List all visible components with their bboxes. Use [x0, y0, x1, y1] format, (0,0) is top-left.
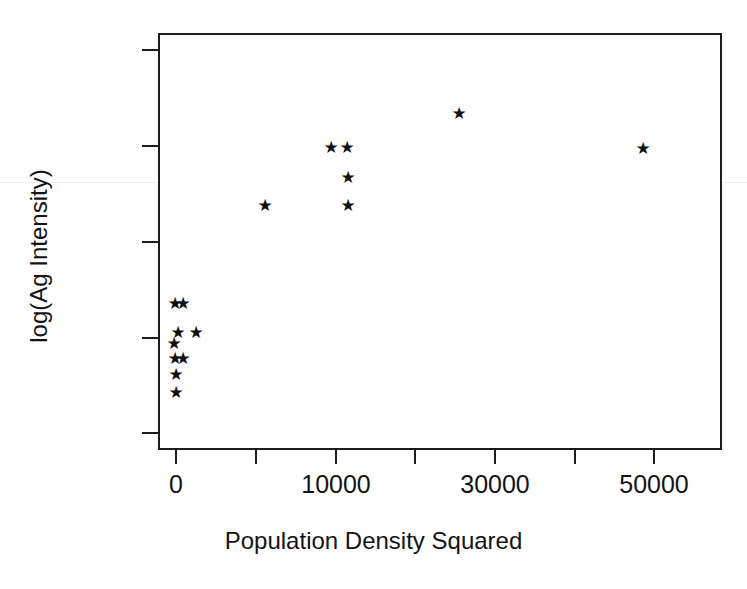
- x-tick-label: 30000: [415, 470, 575, 498]
- scatter-plot-figure: 2.52.01.51.00.5 0100003000050000 ★★★★★★★…: [0, 0, 747, 589]
- x-tick-mark: [414, 450, 416, 464]
- x-tick-mark: [494, 450, 496, 464]
- x-axis: 0100003000050000: [0, 0, 747, 589]
- x-tick-mark: [335, 450, 337, 464]
- x-tick-label: 10000: [256, 470, 416, 498]
- x-tick-label: 50000: [574, 470, 734, 498]
- x-tick-mark: [175, 450, 177, 464]
- x-tick-mark: [574, 450, 576, 464]
- y-axis-title: log(Ag Intensity): [24, 46, 54, 466]
- x-tick-label: 0: [96, 470, 256, 498]
- x-axis-title: Population Density Squared: [0, 526, 747, 556]
- x-tick-mark: [653, 450, 655, 464]
- x-tick-mark: [255, 450, 257, 464]
